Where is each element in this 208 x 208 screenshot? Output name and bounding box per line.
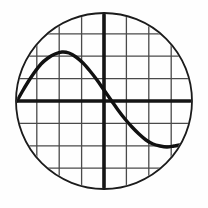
circular-grid-chart [0,0,208,208]
figure-container [0,0,208,208]
